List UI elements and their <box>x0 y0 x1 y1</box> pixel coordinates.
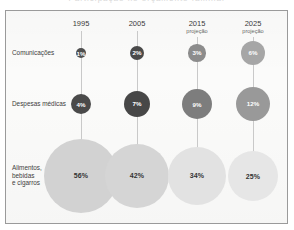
column-year-label: 2025 <box>218 19 288 28</box>
bubble-value-label: 4% <box>76 101 85 108</box>
bubble-2-2005[interactable]: 7% <box>124 91 150 117</box>
bubble-1-2005[interactable]: 2% <box>130 46 144 60</box>
bubble-1-2025[interactable]: 6% <box>241 41 265 65</box>
bubble-1-1995[interactable]: 1% <box>76 48 86 58</box>
clipped-heading-text: Participação no orçamento familiar <box>0 0 294 2</box>
bubble-1-2015[interactable]: 3% <box>188 44 205 61</box>
clipped-heading: Participação no orçamento familiar <box>0 0 294 9</box>
bubble-value-label: 3% <box>192 49 201 56</box>
bubble-value-label: 1% <box>76 50 85 57</box>
bubble-3-2005[interactable]: 42% <box>105 144 170 209</box>
bubble-value-label: 2% <box>132 49 141 56</box>
column-note-label: projeção <box>218 28 288 35</box>
bubble-value-label: 9% <box>192 101 201 108</box>
bubble-value-label: 12% <box>247 100 260 107</box>
bubble-3-2015[interactable]: 34% <box>168 147 226 205</box>
chart-frame: 199520052015projeção2025projeção Comunic… <box>5 10 288 224</box>
bubble-2-2015[interactable]: 9% <box>182 89 212 119</box>
row-label-1: Comunicações <box>12 49 54 57</box>
bubble-value-label: 25% <box>246 173 260 180</box>
row-label-3: Alimentos, bebidas e cigarros <box>12 164 42 187</box>
bubble-2-1995[interactable]: 4% <box>71 94 91 114</box>
bubble-value-label: 56% <box>74 172 88 179</box>
bubble-value-label: 42% <box>130 172 144 179</box>
bubble-value-label: 7% <box>132 100 141 107</box>
row-label-2: Despesas médicas <box>12 100 66 108</box>
bubble-value-label: 6% <box>248 49 257 56</box>
bubble-value-label: 34% <box>190 172 204 179</box>
bubble-2-2025[interactable]: 12% <box>236 87 271 122</box>
column-header-2025: 2025projeção <box>218 19 288 35</box>
bubble-3-2025[interactable]: 25% <box>228 151 278 201</box>
